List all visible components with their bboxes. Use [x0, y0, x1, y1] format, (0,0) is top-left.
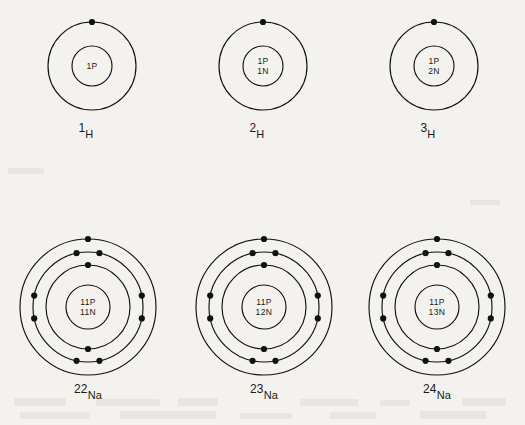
- element-symbol: H: [256, 128, 264, 140]
- electron-dot: [73, 358, 79, 364]
- electron-dot: [315, 292, 321, 298]
- nucleus-neutron-count: 2N: [428, 66, 440, 76]
- element-symbol: H: [85, 128, 93, 140]
- electron-dot: [272, 358, 278, 364]
- electron-dot: [96, 250, 102, 256]
- isotope-mass-number: 24: [423, 382, 437, 396]
- electron-dot: [261, 346, 267, 352]
- isotope-label-hydrogen-2: 2H: [249, 122, 264, 141]
- electron-dot: [434, 262, 440, 268]
- electron-dot: [207, 292, 213, 298]
- atom-hydrogen-3: 1P2N: [390, 19, 478, 110]
- atom-hydrogen-2: 1P1N: [219, 19, 307, 110]
- electron-dot: [73, 250, 79, 256]
- nucleus-proton-count: 11P: [256, 297, 272, 307]
- atom-sodium-23: 11P12N: [196, 236, 332, 375]
- atom-hydrogen-1: 1P: [48, 19, 136, 110]
- electron-dot: [85, 236, 91, 242]
- electron-dot: [272, 250, 278, 256]
- atomic-structure-figure: 1P1P1N1P2N11P11N11P12N11P13N: [0, 0, 525, 425]
- electron-dot: [261, 236, 267, 242]
- nucleus-proton-count: 1P: [86, 61, 97, 71]
- electron-dot: [207, 315, 213, 321]
- electron-dot: [89, 19, 95, 25]
- electron-dot: [445, 358, 451, 364]
- isotope-mass-number: 1: [78, 121, 85, 135]
- nucleus-neutron-count: 13N: [429, 307, 446, 317]
- electron-dot: [85, 346, 91, 352]
- electron-dot: [422, 358, 428, 364]
- isotope-mass-number: 3: [420, 121, 427, 135]
- electron-dot: [249, 358, 255, 364]
- electron-dot: [139, 292, 145, 298]
- nucleus-neutron-count: 1N: [257, 66, 269, 76]
- element-symbol: Na: [437, 389, 451, 401]
- electron-dot: [139, 315, 145, 321]
- element-symbol: Na: [264, 389, 278, 401]
- electron-dot: [434, 236, 440, 242]
- electron-dot: [380, 292, 386, 298]
- nucleus-proton-count: 11P: [429, 297, 445, 307]
- nucleus-proton-count: 1P: [428, 56, 439, 66]
- atom-sodium-22: 11P11N: [20, 236, 156, 375]
- atom-sodium-24: 11P13N: [369, 236, 505, 375]
- electron-dot: [249, 250, 255, 256]
- electron-dot: [380, 315, 386, 321]
- element-symbol: H: [427, 128, 435, 140]
- nucleus-neutron-count: 12N: [256, 307, 273, 317]
- nucleus-proton-count: 1P: [257, 56, 268, 66]
- electron-dot: [488, 315, 494, 321]
- isotope-mass-number: 22: [74, 382, 88, 396]
- electron-dot: [445, 250, 451, 256]
- atom-diagram-canvas: 1P1P1N1P2N11P11N11P12N11P13N: [0, 0, 525, 425]
- isotope-mass-number: 23: [250, 382, 264, 396]
- electron-dot: [31, 315, 37, 321]
- electron-dot: [422, 250, 428, 256]
- electron-dot: [431, 19, 437, 25]
- electron-dot: [31, 292, 37, 298]
- isotope-label-hydrogen-3: 3H: [420, 122, 435, 141]
- electron-dot: [85, 262, 91, 268]
- isotope-label-sodium-24: 24Na: [423, 383, 451, 402]
- electron-dot: [96, 358, 102, 364]
- nucleus-neutron-count: 11N: [80, 307, 96, 317]
- electron-dot: [315, 315, 321, 321]
- isotope-mass-number: 2: [249, 121, 256, 135]
- element-symbol: Na: [88, 389, 102, 401]
- isotope-label-sodium-22: 22Na: [74, 383, 102, 402]
- electron-dot: [488, 292, 494, 298]
- electron-dot: [260, 19, 266, 25]
- isotope-label-hydrogen-1: 1H: [78, 122, 93, 141]
- nucleus-proton-count: 11P: [80, 297, 96, 307]
- isotope-label-sodium-23: 23Na: [250, 383, 278, 402]
- electron-dot: [434, 346, 440, 352]
- electron-dot: [261, 262, 267, 268]
